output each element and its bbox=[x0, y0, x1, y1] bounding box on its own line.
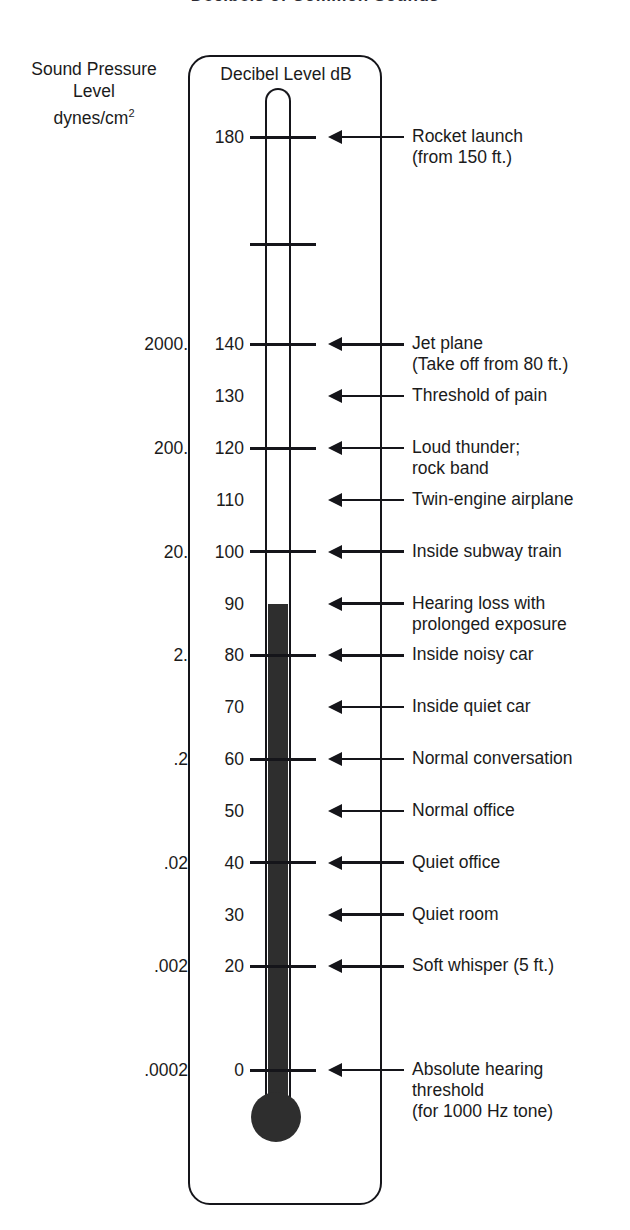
scale-tick bbox=[250, 1069, 316, 1072]
scale-tick bbox=[250, 654, 316, 657]
sound-source-label: Inside subway train bbox=[412, 541, 630, 562]
decibel-value: 80 bbox=[178, 647, 244, 665]
pointer-arrow-line bbox=[342, 1069, 404, 1072]
pointer-arrow-icon bbox=[328, 908, 342, 922]
pointer-arrow-line bbox=[342, 861, 404, 864]
decibel-value: 40 bbox=[178, 855, 244, 873]
pointer-arrow-icon bbox=[328, 545, 342, 559]
pressure-value: .02 bbox=[60, 855, 188, 873]
pointer-arrow-icon bbox=[328, 856, 342, 870]
pressure-value: 20. bbox=[60, 544, 188, 562]
sound-source-label: Soft whisper (5 ft.) bbox=[412, 955, 630, 976]
figure-title: Decibels of Common Sounds bbox=[0, 0, 630, 6]
pointer-arrow-icon bbox=[328, 752, 342, 766]
sound-source-label: Twin-engine airplane bbox=[412, 489, 630, 510]
decibel-value: 100 bbox=[178, 544, 244, 562]
pressure-axis-header: Sound Pressure Level dynes/cm2 bbox=[8, 58, 180, 129]
decibel-value: 30 bbox=[178, 907, 244, 925]
decibel-value: 130 bbox=[178, 388, 244, 406]
pointer-arrow-icon bbox=[328, 597, 342, 611]
decibel-value: 20 bbox=[178, 958, 244, 976]
sound-source-label: Quiet office bbox=[412, 852, 630, 873]
decibel-value: 70 bbox=[178, 699, 244, 717]
sound-source-label: Inside noisy car bbox=[412, 644, 630, 665]
scale-tick bbox=[250, 861, 316, 864]
decibel-scale-figure: Decibels of Common Sounds Sound Pressure… bbox=[0, 0, 630, 1230]
pressure-value: 2000. bbox=[60, 336, 188, 354]
pointer-arrow-line bbox=[342, 550, 404, 553]
pointer-arrow-line bbox=[342, 913, 404, 916]
pressure-value: 200. bbox=[60, 440, 188, 458]
sound-source-label-line: prolonged exposure bbox=[412, 614, 630, 635]
sound-source-label-line: Loud thunder; bbox=[412, 437, 520, 457]
sound-source-label: Threshold of pain bbox=[412, 385, 630, 406]
pointer-arrow-icon bbox=[328, 389, 342, 403]
pointer-arrow-line bbox=[342, 965, 404, 968]
sound-source-label-line: Quiet room bbox=[412, 904, 499, 924]
sound-source-label: Normal conversation bbox=[412, 748, 630, 769]
scale-tick bbox=[250, 447, 316, 450]
scale-tick bbox=[250, 136, 316, 139]
sound-source-label-line: Twin-engine airplane bbox=[412, 489, 574, 509]
pressure-axis-header-line1: Sound Pressure bbox=[8, 58, 180, 80]
sound-source-label: Quiet room bbox=[412, 904, 630, 925]
pointer-arrow-line bbox=[342, 706, 404, 709]
pointer-arrow-line bbox=[342, 758, 404, 761]
pressure-axis-header-line2: Level bbox=[8, 80, 180, 102]
sound-source-label-line: Hearing loss with bbox=[412, 593, 545, 613]
pointer-arrow-icon bbox=[328, 959, 342, 973]
sound-source-label: Hearing loss withprolonged exposure bbox=[412, 593, 630, 635]
pointer-arrow-line bbox=[342, 447, 404, 450]
decibel-value: 180 bbox=[178, 129, 244, 147]
scale-tick bbox=[250, 758, 316, 761]
sound-source-label-line: Soft whisper (5 ft.) bbox=[412, 955, 554, 975]
sound-source-label-line: Inside quiet car bbox=[412, 696, 531, 716]
decibel-value: 110 bbox=[178, 492, 244, 510]
pointer-arrow-line bbox=[342, 654, 404, 657]
sound-source-label: Loud thunder;rock band bbox=[412, 437, 630, 479]
decibel-value: 90 bbox=[178, 596, 244, 614]
scale-tick bbox=[250, 343, 316, 346]
pressure-value: .002 bbox=[60, 958, 188, 976]
pointer-arrow-line bbox=[342, 499, 404, 502]
pointer-arrow-line bbox=[342, 395, 404, 398]
sound-source-label: Normal office bbox=[412, 800, 630, 821]
pressure-value: 2. bbox=[60, 647, 188, 665]
sound-source-label: Jet plane(Take off from 80 ft.) bbox=[412, 333, 630, 375]
sound-source-label-line: (from 150 ft.) bbox=[412, 147, 630, 168]
sound-source-label: Inside quiet car bbox=[412, 696, 630, 717]
pointer-arrow-line bbox=[342, 602, 404, 605]
sound-source-label: Rocket launch(from 150 ft.) bbox=[412, 126, 630, 168]
sound-source-label-line: rock band bbox=[412, 458, 630, 479]
thermometer-bulb bbox=[251, 1092, 301, 1142]
pressure-value: .0002 bbox=[60, 1062, 188, 1080]
sound-source-label-line: Absolute hearing bbox=[412, 1059, 543, 1079]
sound-source-label-line: Threshold of pain bbox=[412, 385, 547, 405]
pointer-arrow-line bbox=[342, 343, 404, 346]
pointer-arrow-icon bbox=[328, 493, 342, 507]
sound-source-label-line: Normal office bbox=[412, 800, 515, 820]
scale-tick bbox=[250, 243, 316, 246]
pressure-value: .2 bbox=[60, 751, 188, 769]
pointer-arrow-icon bbox=[328, 1063, 342, 1077]
pressure-axis-header-line3: dynes/cm2 bbox=[8, 102, 180, 129]
sound-source-label-line: (Take off from 80 ft.) bbox=[412, 354, 630, 375]
pointer-arrow-icon bbox=[328, 804, 342, 818]
pointer-arrow-icon bbox=[328, 648, 342, 662]
sound-source-label-line: Normal conversation bbox=[412, 748, 572, 768]
sound-source-label-line: threshold bbox=[412, 1080, 630, 1101]
pressure-axis-units: dynes/cm bbox=[53, 108, 128, 128]
pointer-arrow-line bbox=[342, 810, 404, 813]
decibel-value: 0 bbox=[178, 1062, 244, 1080]
decibel-value: 50 bbox=[178, 803, 244, 821]
pointer-arrow-line bbox=[342, 136, 404, 139]
decibel-value: 120 bbox=[178, 440, 244, 458]
sound-source-label-line: Rocket launch bbox=[412, 126, 523, 146]
sound-source-label: Absolute hearingthreshold(for 1000 Hz to… bbox=[412, 1059, 630, 1122]
decibel-value: 140 bbox=[178, 336, 244, 354]
scale-tick bbox=[250, 550, 316, 553]
pointer-arrow-icon bbox=[328, 337, 342, 351]
pressure-axis-units-exponent: 2 bbox=[128, 107, 134, 119]
scale-tick bbox=[250, 965, 316, 968]
decibel-value: 60 bbox=[178, 751, 244, 769]
